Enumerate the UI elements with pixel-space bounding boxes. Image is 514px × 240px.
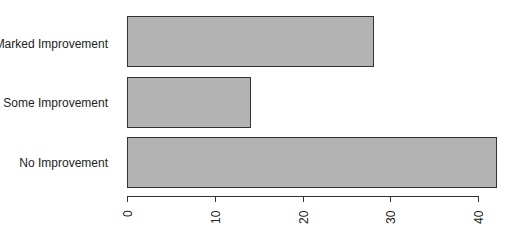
x-tick-label: 20 [297, 211, 311, 224]
x-tick [127, 196, 128, 202]
bar-no-improvement [127, 137, 497, 188]
x-tick [215, 196, 216, 202]
category-label-marked: Marked Improvement [0, 37, 108, 51]
category-label-some: Some Improvement [3, 96, 108, 110]
x-tick [303, 196, 304, 202]
bar-marked-improvement [127, 16, 374, 67]
x-tick-label: 30 [384, 211, 398, 224]
x-tick-label: 10 [209, 211, 223, 224]
x-tick-label: 0 [121, 210, 135, 217]
bar-some-improvement [127, 77, 251, 128]
category-label-none: No Improvement [19, 156, 108, 170]
x-tick-label: 40 [472, 211, 486, 224]
x-tick [478, 196, 479, 202]
x-tick [390, 196, 391, 202]
